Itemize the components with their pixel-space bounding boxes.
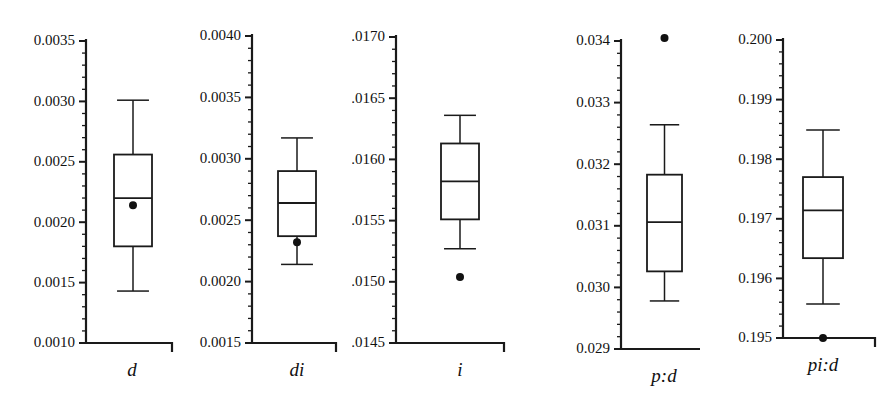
- y-tick-label: 0.033: [576, 94, 610, 110]
- panel-canvas: 0.00350.00300.00250.00200.00150.0010d: [0, 0, 186, 401]
- y-tick-label: 0.032: [576, 156, 610, 172]
- panel-canvas: 0.00400.00350.00300.00250.00200.0015di: [186, 0, 352, 401]
- group-label: di: [290, 359, 305, 380]
- y-tick-label: 0.030: [576, 279, 610, 295]
- y-tick-label: 0.029: [576, 340, 610, 356]
- y-tick-label: 0.0035: [34, 32, 75, 48]
- y-tick-label: 0.0170: [352, 28, 385, 44]
- group-label: i: [457, 359, 462, 380]
- panel-canvas: 0.0340.0330.0320.0310.0300.029p:d: [520, 0, 700, 401]
- y-tick-label: 0.197: [738, 210, 772, 226]
- x-axis-line: [396, 343, 504, 352]
- y-tick-label: 0.0020: [34, 214, 75, 230]
- box-iqr: [803, 177, 843, 258]
- y-tick-label: 0.0030: [200, 150, 241, 166]
- data-point-dot: [456, 273, 464, 281]
- box-iqr: [114, 155, 152, 247]
- y-tick-label: 0.0020: [200, 273, 241, 289]
- data-point-dot: [819, 334, 827, 342]
- y-tick-label: 0.0035: [200, 89, 241, 105]
- panel-canvas: 0.01700.01650.01600.01550.01500.0145i: [352, 0, 520, 401]
- y-tick-label: 0.0155: [352, 212, 385, 228]
- box-iqr: [647, 175, 682, 272]
- boxplot-figure: 0.00350.00300.00250.00200.00150.0010d0.0…: [0, 0, 896, 401]
- y-tick-label: 0.0025: [34, 153, 75, 169]
- x-axis-line: [783, 338, 875, 347]
- y-tick-label: 0.0010: [34, 334, 75, 350]
- y-tick-label: 0.0030: [34, 93, 75, 109]
- boxplot-panel-d: 0.00350.00300.00250.00200.00150.0010d: [0, 0, 186, 401]
- x-axis-line: [252, 343, 336, 352]
- group-label: pi:d: [806, 354, 839, 375]
- y-tick-label: 0.198: [738, 151, 772, 167]
- y-tick-label: 0.0160: [352, 151, 385, 167]
- y-tick-label: 0.196: [738, 270, 772, 286]
- data-point-dot: [129, 201, 137, 209]
- boxplot-panel-di: 0.00400.00350.00300.00250.00200.0015di: [186, 0, 352, 401]
- x-axis-line: [621, 349, 700, 358]
- y-tick-label: 0.200: [738, 31, 772, 47]
- y-tick-label: 0.195: [738, 329, 772, 345]
- y-tick-label: 0.0165: [352, 90, 385, 106]
- y-tick-label: 0.0015: [200, 334, 241, 350]
- y-tick-label: 0.0015: [34, 274, 75, 290]
- y-tick-label: 0.199: [738, 91, 772, 107]
- y-tick-label: 0.031: [576, 217, 610, 233]
- y-tick-label: 0.0150: [352, 273, 385, 289]
- group-label: p:d: [649, 365, 677, 386]
- data-point-dot: [293, 238, 301, 246]
- x-axis-line: [86, 343, 172, 352]
- boxplot-panel-pi-d: 0.2000.1990.1980.1970.1960.195pi:d: [700, 0, 896, 401]
- group-label: d: [127, 359, 137, 380]
- y-tick-label: 0.0145: [352, 334, 385, 350]
- boxplot-panel-p-d: 0.0340.0330.0320.0310.0300.029p:d: [520, 0, 700, 401]
- y-tick-label: 0.0040: [200, 27, 241, 43]
- boxplot-panel-i: 0.01700.01650.01600.01550.01500.0145i: [352, 0, 520, 401]
- panel-canvas: 0.2000.1990.1980.1970.1960.195pi:d: [700, 0, 896, 401]
- data-point-dot: [661, 34, 669, 42]
- y-tick-label: 0.034: [576, 32, 610, 48]
- y-tick-label: 0.0025: [200, 212, 241, 228]
